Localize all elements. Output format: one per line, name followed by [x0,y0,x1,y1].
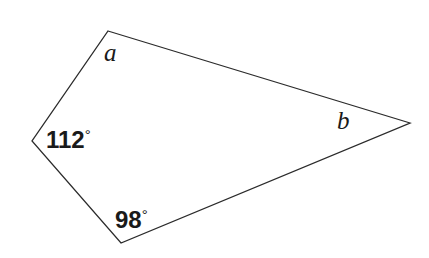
geometry-figure: a b 112° 98° [0,0,429,258]
angle-value-98: 98 [115,206,142,233]
angle-label-a: a [104,40,117,65]
angle-label-98-degrees: 98° [115,207,148,232]
degree-symbol-icon-98: ° [142,206,148,223]
angle-value-112: 112 [46,126,85,153]
angle-label-b: b [337,108,350,133]
angle-label-112-degrees: 112° [46,127,91,152]
degree-symbol-icon-112: ° [85,126,91,143]
